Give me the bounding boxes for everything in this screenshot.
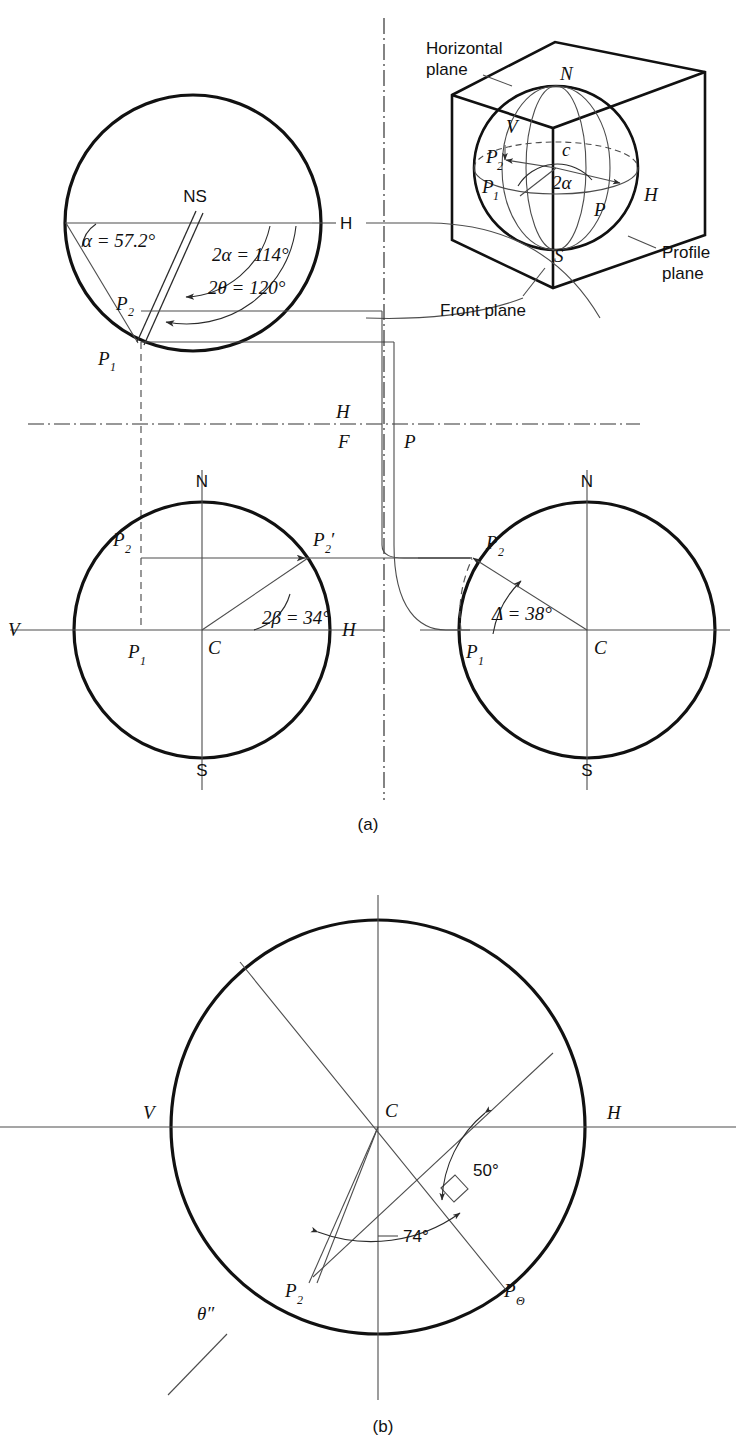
fold-p-label: P [403,431,416,452]
front-circle-s-label: S [196,761,207,780]
svg-text:2: 2 [498,545,504,559]
cube-v-label: V [506,116,520,137]
top-circle-h-label: H [340,214,352,233]
cube-p-label: P [593,199,606,220]
figure-root: NS α = 57.2° 2α = 114° 2θ = 120° P 2 P 1… [0,0,736,1450]
svg-text:1: 1 [478,654,484,668]
cube-c-label: c [562,139,571,160]
svg-text:P: P [312,529,325,550]
front-plane-label: Front plane [440,301,526,320]
panel-b-diameter-upper-left [240,962,506,1290]
svg-text:P: P [485,532,498,553]
two-theta-arc [166,226,296,324]
pictorial-cube-with-sphere: Horizontal plane Profile plane Front pla… [366,39,710,320]
panel-b-p2-label: P 2 [284,1280,303,1307]
top-circle-alpha-label: α = 57.2° [82,230,156,251]
projector-bend-a [382,545,472,558]
svg-text:P: P [503,1280,516,1301]
profile-circle-n-label: N [581,472,593,491]
caption-b: (b) [373,1417,394,1436]
cube-p1-label: P 1 [481,176,499,203]
panel-b-c-label: C [385,1100,398,1121]
front-circle-p1-label: P 1 [127,641,146,668]
cube-h-label: H [643,184,659,205]
top-circle-p2-label: P 2 [115,293,134,319]
theta-dprime-leader [168,1334,227,1395]
cube-radius-to-p2 [506,160,556,168]
fold-h-label: H [335,401,351,422]
svg-text:P: P [284,1280,297,1301]
panel-b-h-label: H [606,1102,622,1123]
profile-plane-label-line2: plane [662,264,704,283]
cube-radius-to-p1 [520,168,556,196]
panel-b-stereonet: V H C P 2 P Θ θ″ 50° 74° [0,895,736,1400]
horizontal-plane-leader [483,75,512,86]
front-view-circle: N S V H C P 2 P 1 P 2 ′ 2β = 34° [8,470,470,790]
svg-text:P: P [465,641,478,662]
panel-b-theta-dprime-label: θ″ [197,1303,215,1324]
profile-circle-p1-label: P 1 [465,641,484,668]
svg-text:1: 1 [110,360,116,374]
cube-p2-label: P 2 [485,146,503,173]
profile-view-circle: N S C P 2 P 1 Δ = 38° [382,311,730,790]
front-circle-p2-label: P 2 [112,529,131,556]
fold-lines: H F P [28,18,640,800]
profile-plane-label-line1: Profile [662,243,710,262]
profile-plane-leader [628,236,656,248]
panel-b-wedge-line-b [317,1127,378,1283]
angle-50-arc [442,1113,485,1200]
svg-text:P: P [112,529,125,550]
cube-n-label: N [559,63,574,84]
front-circle-n-label: N [196,472,208,491]
technical-figure-svg: NS α = 57.2° 2α = 114° 2θ = 120° P 2 P 1… [0,0,736,1450]
svg-text:′: ′ [330,529,335,550]
svg-text:Θ: Θ [516,1294,525,1308]
front-circle-two-beta-label: 2β = 34° [262,607,330,628]
sphere-front-meridian-left [474,86,556,250]
cube-two-alpha-label: 2α [552,172,573,193]
horizontal-plane-label-line2: plane [426,60,468,79]
svg-text:P: P [127,641,140,662]
svg-text:P: P [115,293,128,314]
top-circle-two-alpha-label: 2α = 114° [212,244,289,265]
profile-circle-p1-p2-arc [460,559,472,630]
panel-b-v-label: V [143,1102,157,1123]
top-circle-two-theta-label: 2θ = 120° [208,277,286,298]
cube-s-label: S [554,245,564,266]
profile-circle-delta-label: Δ = 38° [491,603,552,624]
caption-a: (a) [358,815,379,834]
svg-text:1: 1 [140,654,146,668]
front-circle-p2prime-label: P 2 ′ [312,529,335,556]
svg-text:2: 2 [497,159,503,173]
horizontal-plane-label-line1: Horizontal [426,39,503,58]
panel-b-angle-50-label: 50° [473,1161,499,1180]
profile-circle-s-label: S [581,761,592,780]
svg-text:1: 1 [493,189,499,203]
svg-text:P: P [97,348,110,369]
panel-b-wedge-line-a [309,1127,378,1283]
panel-b-ptheta-label: P Θ [503,1280,525,1308]
front-circle-h-label: H [341,619,357,640]
panel-b-ptheta-diameter [313,1053,553,1277]
top-circle-p1-label: P 1 [97,348,116,374]
panel-b-angle-74-label: 74° [403,1227,429,1246]
top-circle-ns-label: NS [183,187,207,206]
profile-circle-c-label: C [594,637,607,658]
fold-f-label: F [337,431,350,452]
svg-text:2: 2 [125,542,131,556]
svg-text:2: 2 [297,1293,303,1307]
front-circle-c-label: C [208,637,221,658]
svg-text:2: 2 [128,305,134,319]
